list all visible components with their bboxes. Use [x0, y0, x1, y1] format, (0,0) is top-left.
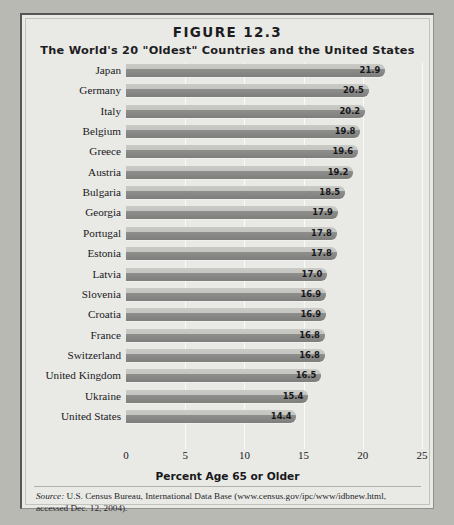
bar-row: Japan21.9: [126, 63, 422, 83]
bar-row: France16.8: [126, 328, 422, 348]
category-label: Greece: [21, 144, 121, 158]
category-label: France: [21, 328, 121, 342]
bar: 16.8: [126, 349, 325, 362]
page-title: The World's 20 "Oldest" Countries and th…: [22, 44, 433, 57]
bar-row: Greece19.6: [126, 144, 422, 164]
bar-row: Austria19.2: [126, 165, 422, 185]
bar-value-label: 19.8: [335, 125, 356, 138]
bar-row: Ukraine15.4: [126, 389, 422, 409]
source-label: Source:: [36, 491, 64, 501]
category-label: Latvia: [21, 267, 121, 281]
bar-value-label: 17.8: [311, 227, 332, 240]
x-tick-label: 20: [357, 449, 368, 461]
x-tick-label: 5: [182, 449, 188, 461]
category-label: Slovenia: [21, 287, 121, 301]
bar-row: Slovenia16.9: [126, 287, 422, 307]
bar-row: United States14.4: [126, 409, 422, 429]
bar: 16.9: [126, 288, 326, 301]
category-label: Italy: [21, 104, 121, 118]
bar-row: Latvia17.0: [126, 267, 422, 287]
category-label: Germany: [21, 83, 121, 97]
gridline: [422, 63, 423, 449]
category-label: Portugal: [21, 226, 121, 240]
bar: 18.5: [126, 186, 345, 199]
bar-value-label: 17.8: [311, 247, 332, 260]
figure-number: FIGURE 12.3: [22, 24, 433, 40]
category-label: Switzerland: [21, 348, 121, 362]
x-axis-title: Percent Age 65 or Older: [22, 470, 433, 482]
category-label: Croatia: [21, 307, 121, 321]
category-label: Japan: [21, 63, 121, 77]
bar: 20.5: [126, 84, 369, 97]
bar-row: Estonia17.8: [126, 246, 422, 266]
bar-value-label: 16.5: [296, 369, 317, 382]
bar-value-label: 15.4: [283, 390, 304, 403]
bar: 16.8: [126, 329, 325, 342]
bar-row: Portugal17.8: [126, 226, 422, 246]
category-label: Bulgaria: [21, 185, 121, 199]
bar: 21.9: [126, 64, 385, 77]
bar: 16.9: [126, 308, 326, 321]
figure-title-block: FIGURE 12.3 The World's 20 "Oldest" Coun…: [22, 24, 433, 57]
bar-value-label: 16.8: [299, 349, 320, 362]
x-tick-label: 15: [298, 449, 309, 461]
bar: 16.5: [126, 369, 321, 382]
category-label: United Kingdom: [21, 368, 121, 382]
bar: 20.2: [126, 105, 365, 118]
bar-value-label: 19.6: [332, 145, 353, 158]
bar: 17.9: [126, 206, 338, 219]
x-tick-label: 10: [239, 449, 250, 461]
bar-row: Switzerland16.8: [126, 348, 422, 368]
bar-value-label: 21.9: [360, 64, 381, 77]
category-label: Ukraine: [21, 389, 121, 403]
bar: 19.6: [126, 145, 358, 158]
bar-row: Georgia17.9: [126, 205, 422, 225]
bar: 19.8: [126, 125, 360, 138]
bar-value-label: 17.0: [302, 268, 323, 281]
category-label: Estonia: [21, 246, 121, 260]
bar: 17.0: [126, 268, 327, 281]
bar: 15.4: [126, 390, 308, 403]
bar-row: Germany20.5: [126, 83, 422, 103]
bar-rows: Japan21.9Germany20.5Italy20.2Belgium19.8…: [126, 63, 422, 449]
bar: 17.8: [126, 227, 337, 240]
bar-row: Croatia16.9: [126, 307, 422, 327]
bar-value-label: 16.9: [300, 288, 321, 301]
x-axis: 0510152025: [126, 449, 422, 467]
bar-row: Italy20.2: [126, 104, 422, 124]
bar-value-label: 20.2: [339, 105, 360, 118]
bar-value-label: 19.2: [328, 166, 349, 179]
category-label: Georgia: [21, 205, 121, 219]
x-tick-label: 0: [123, 449, 129, 461]
bar-value-label: 14.4: [271, 410, 292, 423]
bar-value-label: 17.9: [312, 206, 333, 219]
bar-value-label: 20.5: [343, 84, 364, 97]
chart-plot-area: Japan21.9Germany20.5Italy20.2Belgium19.8…: [126, 63, 422, 449]
source-note: Source: U.S. Census Bureau, Internationa…: [36, 491, 419, 514]
bar: 17.8: [126, 247, 337, 260]
category-label: United States: [21, 409, 121, 423]
bar-value-label: 16.8: [299, 329, 320, 342]
bar-value-label: 16.9: [300, 308, 321, 321]
bar-row: Bulgaria18.5: [126, 185, 422, 205]
bar-row: Belgium19.8: [126, 124, 422, 144]
category-label: Belgium: [21, 124, 121, 138]
x-tick-label: 25: [417, 449, 428, 461]
bar-value-label: 18.5: [319, 186, 340, 199]
bar: 19.2: [126, 166, 353, 179]
bar-row: United Kingdom16.5: [126, 368, 422, 388]
source-divider: [34, 486, 421, 487]
category-label: Austria: [21, 165, 121, 179]
bar: 14.4: [126, 410, 296, 423]
source-text: U.S. Census Bureau, International Data B…: [36, 491, 386, 513]
figure-panel: FIGURE 12.3 The World's 20 "Oldest" Coun…: [20, 13, 434, 509]
